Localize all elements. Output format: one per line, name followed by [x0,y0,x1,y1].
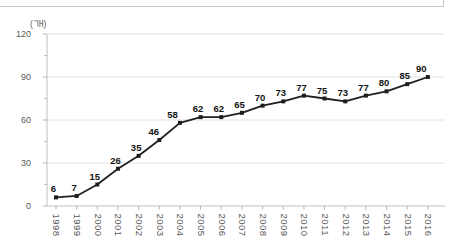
x-axis-year-label: 2011 [320,214,331,236]
y-axis-tick-label: 0 [26,201,31,211]
data-point-marker [343,99,347,103]
value-label: 62 [193,103,204,114]
hangul-gae-glyph [34,21,38,27]
x-axis-year-label: 2000 [93,214,104,237]
y-axis: 0306090120 [16,29,47,211]
value-label: 73 [275,87,286,98]
data-point-marker [240,111,244,115]
value-label: 80 [379,77,390,88]
x-axis-year-label: 2016 [423,214,434,237]
x-axis-year-label: 2003 [155,214,166,237]
value-label: 46 [149,126,160,137]
x-axis-year-label: 1998 [51,214,62,237]
value-label: 77 [296,82,307,93]
x-axis-year-label: 2007 [237,214,248,237]
data-point-marker [116,167,120,171]
x-axis-year-label: 2001 [113,214,124,237]
data-point-marker [405,82,409,86]
value-label: 58 [167,109,178,120]
x-axis-year-label: 2002 [134,214,145,237]
data-point-marker [157,138,161,142]
data-point-marker [426,75,430,79]
hangul-gae-glyph [40,20,43,27]
x-axis-year-label: 2012 [341,214,352,237]
screenshot-root: 0306090120()1998199920002001200220032004… [0,0,454,246]
y-axis-unit-label: () [30,19,47,29]
data-point-marker [302,94,306,98]
x-axis-year-label: 2015 [403,214,414,237]
data-point-marker [95,183,99,187]
value-label: 77 [358,82,369,93]
value-label: 62 [213,103,224,114]
y-axis-tick-label: 30 [21,158,31,168]
data-point-marker [323,97,327,101]
x-axis-year-label: 2005 [196,214,207,237]
x-axis-year-label: 1999 [72,214,83,237]
value-label: 7 [72,182,77,193]
data-point-marker [75,194,79,198]
chart-canvas: 0306090120()1998199920002001200220032004… [0,0,454,246]
y-axis-tick-label: 120 [16,29,31,39]
line-chart: 0306090120()1998199920002001200220032004… [0,0,454,246]
value-label: 35 [131,142,142,153]
value-label: 85 [399,70,410,81]
x-axis-year-label: 2010 [299,214,310,237]
series-line [56,77,428,197]
unit-open-paren: ( [30,19,33,29]
value-label: 6 [51,183,56,194]
x-axis-year-label: 2009 [279,214,290,237]
value-label: 75 [317,85,328,96]
value-label: 15 [90,171,101,182]
data-point-marker [281,99,285,103]
value-label: 73 [337,87,348,98]
x-axis-year-label: 2013 [361,214,372,237]
value-label: 90 [416,63,427,74]
data-point-marker [178,121,182,125]
x-axis: 1998199920002001200220032004200520062007… [47,206,445,237]
x-axis-year-label: 2014 [382,214,393,237]
value-label: 65 [234,99,245,110]
value-label: 26 [110,155,121,166]
x-axis-year-label: 2008 [258,214,269,237]
x-axis-year-label: 2006 [217,214,228,237]
data-series: 671526354658626265707377757377808590 [51,63,430,199]
y-axis-tick-label: 60 [21,115,31,125]
data-point-marker [137,154,141,158]
value-label: 70 [255,92,266,103]
data-point-marker [199,115,203,119]
x-axis-year-label: 2004 [175,214,186,237]
data-point-marker [385,89,389,93]
data-point-marker [54,195,58,199]
unit-close-paren: ) [44,19,47,29]
y-axis-tick-label: 90 [21,72,31,82]
gridlines [47,34,445,163]
data-point-marker [364,94,368,98]
data-point-marker [261,104,265,108]
data-point-marker [219,115,223,119]
